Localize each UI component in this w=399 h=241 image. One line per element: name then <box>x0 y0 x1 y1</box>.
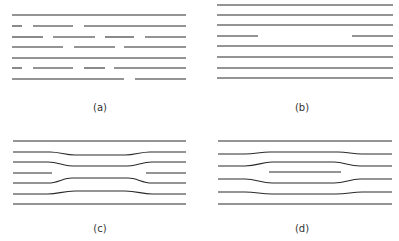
figure-canvas: (a) (b) (c) (d) <box>0 0 399 241</box>
curved-line <box>13 191 186 194</box>
curved-line <box>13 152 186 155</box>
panel-b-lines <box>217 5 393 78</box>
curved-line <box>218 152 392 154</box>
panel-d-curves <box>218 152 392 194</box>
panel-a-label: (a) <box>93 102 107 113</box>
panel-d: (d) <box>218 141 392 234</box>
curved-line <box>218 162 392 166</box>
panel-c: (c) <box>13 141 186 234</box>
curved-line <box>13 178 186 183</box>
panel-c-label: (c) <box>93 223 106 234</box>
panel-b-label: (b) <box>295 102 309 113</box>
panel-a: (a) <box>12 15 186 113</box>
curved-line <box>218 179 392 183</box>
panel-a-lines <box>12 15 186 79</box>
curved-line <box>13 162 186 166</box>
curved-line <box>218 192 392 194</box>
panel-b: (b) <box>217 5 393 113</box>
panel-d-label: (d) <box>295 223 309 234</box>
